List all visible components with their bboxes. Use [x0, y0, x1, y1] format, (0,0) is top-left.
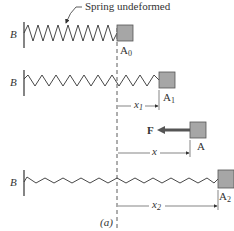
block-a	[190, 122, 206, 138]
spring-undeformed-annotation: Spring undeformed	[66, 0, 171, 23]
force-label-f: F	[147, 124, 154, 136]
annotation-text: Spring undeformed	[85, 0, 171, 12]
row-stretched-x2: B A2 x2	[10, 170, 234, 212]
block-label-a1: A1	[163, 91, 175, 105]
block-label-a: A	[197, 140, 205, 152]
force-arrow-head	[157, 126, 165, 134]
wall-label-b: B	[10, 28, 17, 40]
dimension-label-x: x	[151, 145, 157, 157]
row-force: F A x	[118, 122, 206, 158]
wall-label-b: B	[10, 76, 17, 88]
row-undeformed: B A0	[10, 22, 133, 58]
spring	[24, 177, 218, 183]
spring	[24, 25, 117, 41]
block-a1	[159, 72, 175, 88]
block-label-a2: A2	[219, 190, 231, 204]
spring	[24, 75, 159, 86]
figure-caption: (a)	[100, 216, 113, 229]
block-a0	[117, 25, 133, 41]
block-a2	[218, 170, 234, 188]
row-stretched-x1: B A1 x1	[10, 70, 175, 112]
spring-diagram: Spring undeformed B A0 B A1 x1 F A x	[0, 0, 234, 231]
wall-label-b: B	[10, 176, 17, 188]
block-label-a0: A0	[120, 44, 132, 58]
